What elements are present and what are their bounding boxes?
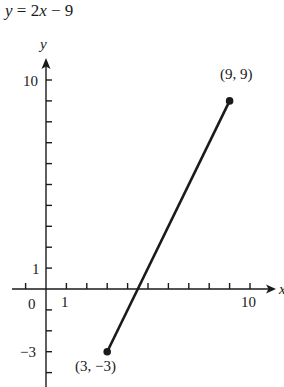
coordinate-plot: y x 0 1 10 10 1 −3 (9, 9) (3, −3) [0, 0, 284, 387]
y-axis-label: y [38, 36, 47, 52]
endpoint-dot-start [103, 348, 111, 356]
x-axis [12, 283, 272, 289]
y-tick-label-1: 1 [32, 261, 40, 277]
y-tick-label-neg3: −3 [20, 344, 36, 360]
y-tick-label-10: 10 [23, 73, 38, 89]
line-segment [107, 101, 229, 352]
x-axis-label: x [278, 281, 284, 297]
y-axis [46, 62, 52, 387]
origin-label: 0 [28, 296, 36, 312]
point-label-start: (3, −3) [75, 358, 116, 375]
endpoint-dot-end [226, 97, 234, 105]
point-label-end: (9, 9) [220, 66, 253, 83]
x-tick-label-1: 1 [61, 294, 69, 310]
x-tick-label-10: 10 [241, 294, 256, 310]
